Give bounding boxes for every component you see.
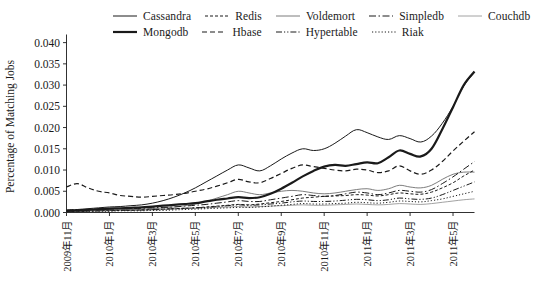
x-axis-tick-label: 2010年7月 <box>232 221 244 267</box>
series-line-simpledb <box>67 162 475 210</box>
y-axis-tick-label: 0.035 <box>34 58 60 70</box>
y-axis-tick-label: 0.040 <box>34 37 60 49</box>
x-axis-tick-label: 2011年3月 <box>404 221 416 267</box>
y-axis-tick-label: 0.010 <box>34 164 60 176</box>
series-line-redis <box>67 170 475 212</box>
y-axis-tick-label: 0.030 <box>34 79 60 91</box>
x-axis-tick-label: 2010年9月 <box>275 221 287 267</box>
x-axis-tick-label: 2009年11月 <box>61 221 73 272</box>
series-line-cassandra <box>67 72 475 210</box>
y-axis-tick-label: 0.020 <box>34 122 60 134</box>
y-axis-tick-label: 0.000 <box>34 207 60 219</box>
x-axis-tick-label: 2010年1月 <box>103 221 115 267</box>
x-axis-tick-label: 2011年5月 <box>447 221 459 267</box>
y-axis: 0.0000.0050.0100.0150.0200.0250.0300.035… <box>34 35 66 219</box>
y-axis-tick-label: 0.025 <box>34 100 60 112</box>
series-lines <box>67 72 475 212</box>
y-axis-tick-label: 0.015 <box>34 143 60 155</box>
x-axis-tick-label: 2010年11月 <box>318 221 330 272</box>
y-axis-title: Percentage of Matching Jobs <box>4 59 17 193</box>
x-axis-tick-label: 2010年5月 <box>189 221 201 267</box>
x-axis-tick-label: 2011年1月 <box>361 221 373 267</box>
x-axis-tick-label: 2010年3月 <box>146 221 158 267</box>
x-axis: 2009年11月2010年1月2010年3月2010年5月2010年7月2010… <box>61 213 475 272</box>
series-line-mongodb <box>67 72 475 211</box>
legend-label-couchdb: Couchdb <box>488 10 530 22</box>
y-axis-tick-label: 0.005 <box>34 185 60 197</box>
